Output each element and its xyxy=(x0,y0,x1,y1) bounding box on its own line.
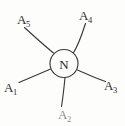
node-label-a5-subscript: 5 xyxy=(26,19,30,29)
node-label-a4: A 4 xyxy=(79,8,93,25)
node-label-a1-subscript: 1 xyxy=(13,87,17,97)
edge-n-a3 xyxy=(78,70,106,82)
node-label-a5: A 5 xyxy=(17,12,30,29)
diagram-canvas: N A 5 A 4 A 3 A 2 A 1 xyxy=(0,0,125,126)
edge-n-a5 xyxy=(25,28,54,54)
node-label-a3-subscript: 3 xyxy=(113,85,117,95)
edge-n-a4 xyxy=(73,24,86,54)
node-label-a4-subscript: 4 xyxy=(88,15,93,25)
node-label-a2: A 2 xyxy=(58,107,71,124)
node-label-a2-subscript: 2 xyxy=(67,114,71,124)
node-label-a1: A 1 xyxy=(4,80,17,97)
node-label-a3: A 3 xyxy=(104,78,117,95)
center-node-label: N xyxy=(59,57,69,72)
edge-n-a1 xyxy=(19,69,51,83)
edge-n-a2 xyxy=(62,78,66,107)
node-link-diagram: N A 5 A 4 A 3 A 2 A 1 xyxy=(0,0,125,126)
